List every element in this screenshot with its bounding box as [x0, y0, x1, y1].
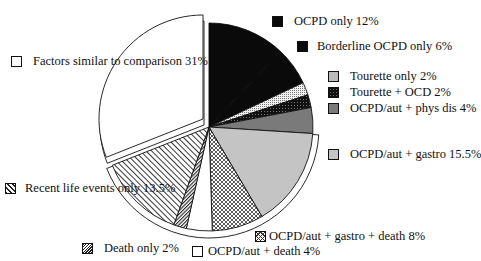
- legend-label: Tourette + OCD 2%: [350, 85, 451, 99]
- swatch-light-dots-icon: [328, 71, 339, 82]
- swatch-dark-dots-icon: [328, 87, 339, 98]
- swatch-solid-black-icon: [272, 16, 283, 27]
- legend-recent-life: Recent life events only 13.5%: [5, 181, 175, 195]
- swatch-crosshatch-icon: [255, 231, 266, 242]
- legend-gastro-death: OCPD/aut + gastro + death 8%: [255, 229, 425, 243]
- swatch-light-gray-icon: [328, 149, 339, 160]
- legend-factors-similar: Factors similar to comparison 31%: [11, 54, 208, 68]
- swatch-white-icon: [192, 246, 203, 257]
- swatch-white-icon: [11, 56, 22, 67]
- legend-tourette-ocd: Tourette + OCD 2%: [328, 85, 451, 99]
- legend-tourette-only: Tourette only 2%: [328, 69, 437, 83]
- legend-phys-dis: OCPD/aut + phys dis 4%: [328, 101, 477, 115]
- legend-label: Borderline OCPD only 6%: [317, 39, 452, 53]
- legend-label: OCPD/aut + death 4%: [208, 244, 320, 258]
- legend-label: Tourette only 2%: [350, 69, 437, 83]
- legend-borderline-ocpd: Borderline OCPD only 6%: [297, 39, 452, 53]
- legend-gastro: OCPD/aut + gastro 15.5%: [328, 147, 481, 161]
- legend-label: OCPD/aut + phys dis 4%: [350, 101, 477, 115]
- swatch-dark-gray-icon: [328, 103, 339, 114]
- legend-death-only: Death only 2%: [82, 241, 179, 255]
- legend-label: Factors similar to comparison 31%: [33, 54, 208, 68]
- legend-label: OCPD/aut + gastro 15.5%: [350, 147, 481, 161]
- legend-label: OCPD only 12%: [294, 14, 379, 28]
- swatch-diagonal-hatch-icon: [5, 183, 16, 194]
- legend-label: OCPD/aut + gastro + death 8%: [269, 229, 425, 243]
- legend-label: Death only 2%: [104, 241, 179, 255]
- swatch-solid-black-icon: [297, 41, 308, 52]
- legend-aut-death: OCPD/aut + death 4%: [192, 244, 320, 258]
- swatch-dense-hatch-icon: [82, 243, 93, 254]
- legend-label: Recent life events only 13.5%: [25, 181, 175, 195]
- legend-ocpd-only: OCPD only 12%: [272, 14, 379, 28]
